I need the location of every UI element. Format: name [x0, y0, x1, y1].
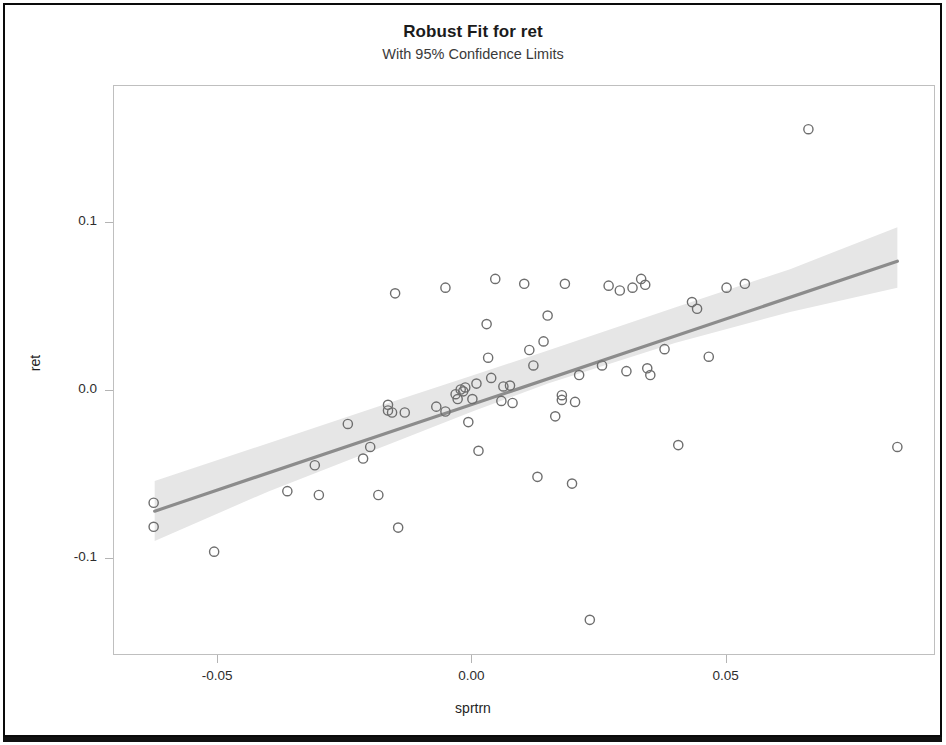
scatter-plot-canvas [114, 86, 935, 655]
scatter-point [533, 472, 542, 481]
scatter-point [391, 289, 400, 298]
plot-area [113, 85, 935, 655]
x-tick-mark [726, 655, 727, 663]
scatter-point [482, 320, 491, 329]
scatter-point [314, 490, 323, 499]
confidence-band [155, 227, 898, 541]
confidence-band-fill [155, 227, 898, 541]
scatter-point [604, 281, 613, 290]
scatter-point [508, 398, 517, 407]
scatter-point [674, 441, 683, 450]
scatter-point [210, 547, 219, 556]
scatter-point [543, 311, 552, 320]
scatter-point [628, 283, 637, 292]
x-tick-label: 0.00 [421, 668, 521, 683]
robust-fit-line [155, 261, 898, 511]
scatter-point [622, 367, 631, 376]
scatter-point [283, 487, 292, 496]
scatter-point [567, 479, 576, 488]
chart-window: Robust Fit for ret With 95% Confidence L… [0, 0, 946, 745]
y-tick-label: -0.1 [23, 549, 97, 564]
scatter-point [525, 345, 534, 354]
y-tick-mark [105, 558, 113, 559]
x-tick-mark [217, 655, 218, 663]
y-tick-label: 0.1 [23, 213, 97, 228]
x-tick-mark [471, 655, 472, 663]
fit-line-stroke [155, 261, 898, 511]
scatter-point [358, 454, 367, 463]
scatter-point [474, 446, 483, 455]
scatter-point [560, 279, 569, 288]
scatter-point [441, 283, 450, 292]
y-tick-mark [105, 222, 113, 223]
y-tick-mark [105, 390, 113, 391]
scatter-point [570, 397, 579, 406]
scatter-point [464, 417, 473, 426]
scatter-point [615, 286, 624, 295]
scatter-point [804, 125, 813, 134]
scatter-point [585, 615, 594, 624]
scatter-point [491, 274, 500, 283]
scatter-point [704, 352, 713, 361]
bottom-edge-bar [3, 737, 942, 742]
scatter-point [539, 337, 548, 346]
scatter-point [520, 279, 529, 288]
scatter-point [394, 523, 403, 532]
x-tick-label: 0.05 [676, 668, 776, 683]
scatter-point [484, 353, 493, 362]
scatter-point [893, 442, 902, 451]
scatter-point [551, 412, 560, 421]
x-tick-label: -0.05 [167, 668, 267, 683]
x-axis-title: sprtrn [0, 700, 946, 716]
scatter-point [374, 490, 383, 499]
y-axis-title: ret [27, 323, 43, 403]
